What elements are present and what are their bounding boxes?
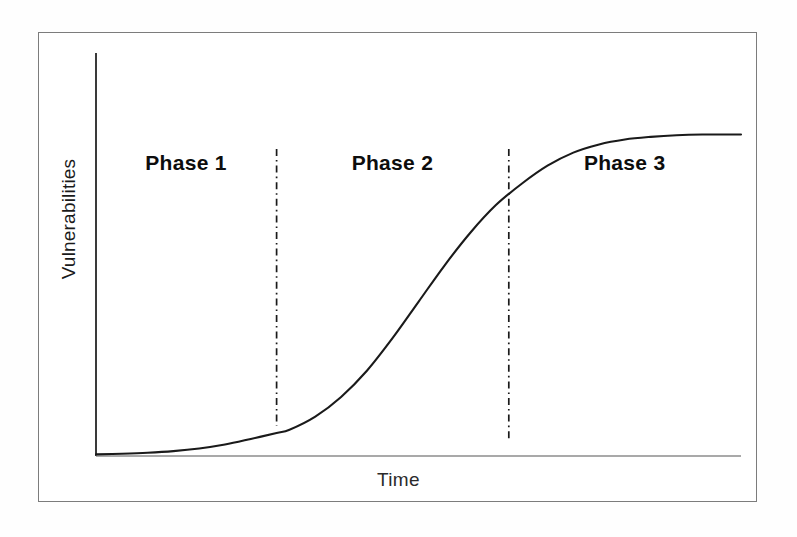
- phase-label-2: Phase 2: [352, 151, 434, 175]
- y-axis-title: Vulnerabilities: [58, 119, 80, 319]
- chart-canvas: [39, 33, 758, 503]
- phase-label-3: Phase 3: [584, 151, 666, 175]
- figure-frame: Vulnerabilities Time Phase 1 Phase 2 Pha…: [38, 32, 757, 502]
- x-axis-title: Time: [39, 469, 758, 491]
- phase-label-1: Phase 1: [145, 151, 227, 175]
- figure-root: Vulnerabilities Time Phase 1 Phase 2 Pha…: [0, 0, 797, 537]
- plot-area: Vulnerabilities Time Phase 1 Phase 2 Pha…: [39, 33, 758, 503]
- vulnerability-curve: [96, 135, 741, 455]
